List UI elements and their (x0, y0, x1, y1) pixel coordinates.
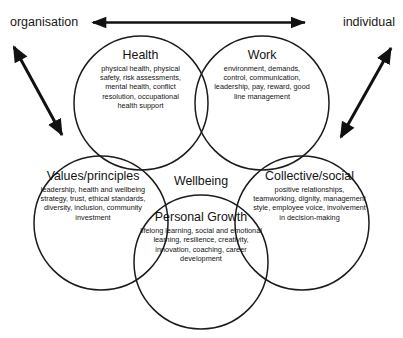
center-label-wellbeing: Wellbeing (161, 175, 241, 188)
lobe-work: Work environment, demands, control, comm… (213, 49, 311, 101)
axis-label-organisation: organisation (10, 16, 78, 29)
wellbeing-venn-diagram: organisation individual Health physical … (0, 0, 403, 338)
lobe-health: Health physical health, physical safety,… (93, 49, 188, 111)
axis-label-individual: individual (343, 16, 395, 29)
lobe-work-title: Work (213, 49, 311, 63)
lobe-collective-social-body: positive relationships, teamworking, dig… (253, 185, 366, 223)
lobe-health-body: physical health, physical safety, risk a… (93, 64, 188, 111)
lobe-values-principles-title: Values/principles (37, 170, 149, 184)
lobe-personal-growth: Personal Growth lifelong learning, socia… (140, 210, 262, 264)
lobe-collective-social: Collective/social positive relationships… (253, 170, 366, 222)
diagram-text-layer: organisation individual Health physical … (0, 0, 403, 338)
lobe-values-principles-body: leadership, health and wellbeing strateg… (37, 185, 149, 223)
lobe-health-title: Health (93, 49, 188, 63)
lobe-values-principles: Values/principles leadership, health and… (37, 170, 149, 222)
lobe-personal-growth-body: lifelong learning, social and emotional … (140, 226, 262, 264)
lobe-work-body: environment, demands, control, communica… (213, 64, 311, 102)
lobe-collective-social-title: Collective/social (253, 170, 366, 184)
lobe-personal-growth-title: Personal Growth (140, 210, 262, 225)
